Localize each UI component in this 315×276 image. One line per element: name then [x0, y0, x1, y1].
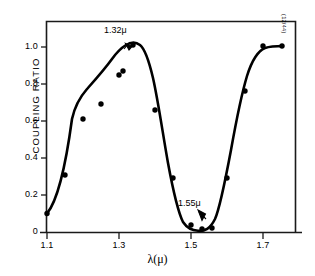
y-axis-ticks: [41, 47, 47, 195]
y-tick-label-0: 0: [12, 226, 38, 236]
data-point: [120, 68, 125, 73]
data-point: [152, 107, 157, 112]
y-tick-label-0.2: 0.2: [12, 189, 38, 199]
annotation-peak: 1.32μ: [104, 25, 127, 35]
annotation-minimum: 1.55μ: [178, 198, 201, 208]
x-tick-label-1.3: 1.3: [108, 240, 130, 250]
data-point: [170, 175, 175, 180]
data-point: [44, 211, 49, 216]
data-point: [224, 175, 229, 180]
x-axis-label: λ(μ): [0, 252, 315, 267]
data-point: [80, 116, 85, 121]
x-tick-label-1.1: 1.1: [36, 240, 58, 250]
data-point: [260, 43, 265, 48]
x-tick-label-1.7: 1.7: [252, 240, 274, 250]
figure-reference-code: (12/44): [281, 14, 287, 34]
data-point: [188, 222, 193, 227]
figure-container: 1.0 0.8 0.6 0.4 0.2 0 1.1 1.3 1.5 1.7 CO…: [0, 0, 315, 276]
chart-plot: [0, 0, 315, 276]
data-point: [242, 88, 247, 93]
annotation-arrows: [124, 42, 206, 221]
x-axis-ticks: [47, 233, 263, 240]
data-point: [279, 43, 284, 48]
data-point: [199, 226, 204, 231]
data-point: [62, 172, 67, 177]
y-axis-label: COUPLING RATIO: [30, 26, 41, 186]
data-point: [116, 72, 121, 77]
data-point: [98, 101, 103, 106]
data-point: [209, 225, 214, 230]
data-curve: [47, 43, 283, 231]
x-tick-label-1.5: 1.5: [180, 240, 202, 250]
